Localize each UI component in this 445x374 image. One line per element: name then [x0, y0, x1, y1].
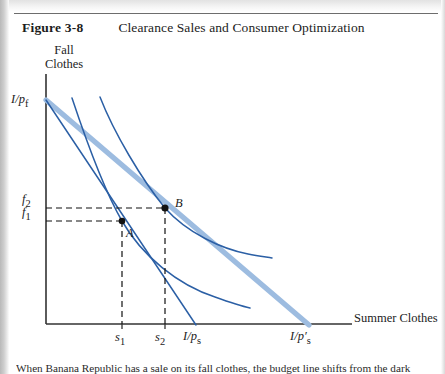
- x-intercept-original-base: I/p: [183, 329, 197, 343]
- point-a-label: A: [126, 226, 134, 240]
- x-axis-title: Summer Clothes: [354, 311, 438, 325]
- x-tick-label-s1: s1: [115, 330, 125, 347]
- x-intercept-new-subscript: s: [307, 335, 311, 346]
- y-intercept-label: I/pf: [11, 92, 28, 109]
- y-intercept-subscript: f: [25, 98, 28, 109]
- x-intercept-original-subscript: s: [197, 335, 201, 346]
- y-axis-title: Fall Clothes: [37, 43, 91, 71]
- figure-plot: Fall Clothes Summer Clothes I/pf f2 f1 s…: [0, 0, 445, 374]
- figure-page: Figure 3-8 Clearance Sales and Consumer …: [0, 0, 445, 374]
- point-b-marker: [161, 204, 168, 211]
- budget-line-new: [46, 100, 309, 325]
- f1-subscript: 1: [25, 211, 30, 222]
- y-tick-label-f1: f1: [22, 205, 31, 222]
- x-intercept-new-base: I/p′: [290, 329, 307, 343]
- s2-subscript: 2: [160, 336, 165, 347]
- y-axis-title-line1: Fall: [37, 43, 91, 57]
- y-axis-title-line2: Clothes: [37, 57, 91, 71]
- point-b-label: B: [175, 196, 183, 210]
- s1-subscript: 1: [120, 336, 125, 347]
- figure-caption: When Banana Republic has a sale on its f…: [16, 362, 432, 374]
- x-tick-label-s2: s2: [155, 330, 165, 347]
- x-intercept-label-new: I/p′s: [290, 329, 311, 346]
- y-intercept-base: I/p: [11, 92, 25, 106]
- x-intercept-label-original: I/ps: [183, 329, 201, 346]
- point-a-marker: [119, 218, 126, 225]
- budget-line-original: [46, 100, 196, 325]
